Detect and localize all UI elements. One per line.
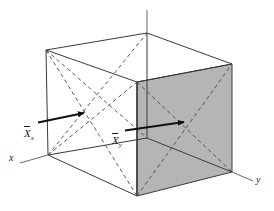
vector-label-xbar-y: Xy [112,133,122,149]
xbar-x-subscript: x [31,134,34,142]
left-face-diagonals [46,50,137,196]
axis-label-x: x [9,152,13,163]
xbar-y-overbar-group: X [112,133,119,146]
y-axis-line [232,172,253,181]
vector-arrow-xbar-x [38,113,84,123]
xbar-x-base: X [24,127,31,139]
interior-diagonals [46,33,147,155]
vector-label-xbar-x: Xx [24,126,34,142]
figure-container: Xx Xy x y [0,0,274,211]
xbar-x-overbar-group: X [24,126,31,139]
axis-label-y: y [256,174,260,185]
xbar-y-subscript: y [119,141,122,149]
xbar-y-base: X [112,134,119,146]
cube-vector-diagram [0,0,274,211]
x-axis-line [20,155,48,163]
